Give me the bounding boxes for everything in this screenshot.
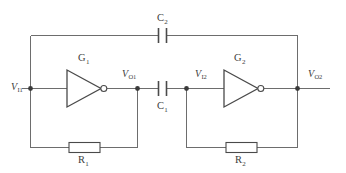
node-dot-vo1 <box>135 86 140 91</box>
resistor-r1-body <box>69 143 100 153</box>
inverter-g1-bubble <box>101 86 107 92</box>
node-dot-vi2 <box>184 86 189 91</box>
capacitor-label-c1: C1 <box>157 101 168 112</box>
capacitor-label-c2: C2 <box>157 13 168 24</box>
inverter-g2-bubble <box>258 86 264 92</box>
resistor-label-r2: R2 <box>235 155 246 166</box>
node-label-vi2: VI2 <box>195 69 207 79</box>
node-label-vo1: VO1 <box>122 69 136 79</box>
inverter-g1 <box>67 70 107 107</box>
node-dot-vo2 <box>295 86 300 91</box>
gate-label-g1: G1 <box>78 53 89 64</box>
capacitor-c2 <box>159 28 167 43</box>
capacitor-c1 <box>159 81 167 96</box>
circuit-schematic-canvas <box>0 0 346 173</box>
inverter-g1-triangle <box>67 70 101 107</box>
resistor-r2-body <box>226 143 257 153</box>
inverter-g2-triangle <box>224 70 258 107</box>
resistor-label-r1: R1 <box>78 155 89 166</box>
top-rail-c2-branch <box>31 36 298 89</box>
node-dot-vi1 <box>28 86 33 91</box>
node-label-vi1: VI1 <box>11 82 23 92</box>
gate-label-g2: G2 <box>234 53 245 64</box>
circuit-diagram: VI1 VO1 VI2 VO2 G1 G2 C2 C1 R1 R2 <box>0 0 346 173</box>
node-label-vo2: VO2 <box>308 69 322 79</box>
inverter-g2 <box>224 70 264 107</box>
